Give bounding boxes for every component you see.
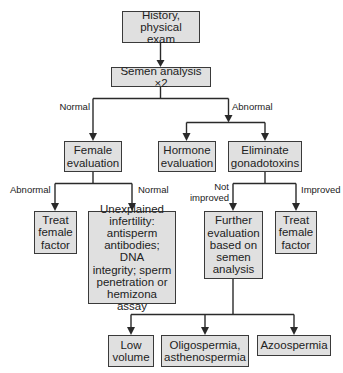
node-hormone-evaluation: Hormone evaluation [158,141,216,172]
edge-label-normal-female: Normal [138,185,169,196]
node-azoospermia: Azoospermia [257,335,331,356]
edge-label-abnormal-female: Abnormal [10,185,51,196]
edge-label-normal-semen: Normal [52,102,90,113]
node-unexplained-infertility: Unexplained infertility: antisperm antib… [88,211,176,304]
node-eliminate-gonadotoxins: Eliminate gonadotoxins [228,141,302,172]
flowchart-canvas: History, physical exam Semen analysis ×2… [0,0,343,373]
connector-lines [0,0,343,373]
node-female-evaluation: Female evaluation [64,141,122,172]
node-treat-female-factor-right: Treat female factor [275,211,317,254]
node-low-volume: Low volume [108,335,154,367]
node-history-physical-exam: History, physical exam [122,11,200,43]
node-treat-female-factor-left: Treat female factor [34,211,77,254]
edge-label-abnormal-semen: Abnormal [232,102,273,113]
edge-label-improved: Improved [301,185,341,196]
node-semen-analysis: Semen analysis ×2 [111,67,211,87]
edge-label-not-improved: Not improved [184,182,229,203]
node-oligospermia-asthenospermia: Oligospermia, asthenospermia [161,335,249,367]
node-further-evaluation: Further evaluation based on semen analys… [204,211,263,279]
